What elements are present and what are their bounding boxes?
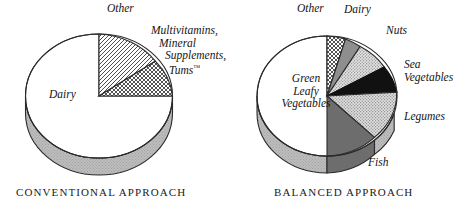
label-legumes: Legumes: [404, 110, 445, 123]
label-green-line2: Leafy: [293, 85, 319, 97]
label-dairy-balanced: Dairy: [344, 3, 371, 16]
label-supplements-line4: Tums: [169, 64, 193, 77]
label-supplements-line3: Supplements,: [165, 49, 226, 62]
label-supplements-conventional: Multivitamins, Mineral Supplements, Tums…: [151, 24, 237, 77]
figure-two-pie-charts: Other Dairy Multivitamins, Mineral Suppl…: [0, 0, 473, 211]
label-supplements-line2: Mineral: [159, 37, 196, 50]
label-green-leafy-vegetables: Green Leafy Vegetables: [268, 72, 344, 110]
label-supplements-line1: Multivitamins,: [151, 24, 218, 36]
label-other-conventional: Other: [107, 2, 134, 15]
label-other-balanced: Other: [297, 2, 324, 15]
label-nuts: Nuts: [386, 24, 407, 37]
label-green-line1: Green: [292, 72, 320, 84]
trademark-symbol: ™: [193, 64, 200, 72]
caption-balanced-approach: BALANCED APPROACH: [274, 186, 413, 198]
caption-conventional-approach: CONVENTIONAL APPROACH: [16, 186, 186, 198]
label-dairy-conventional: Dairy: [49, 88, 76, 101]
label-sea-vegetables: Sea Vegetables: [404, 58, 472, 83]
label-fish: Fish: [368, 156, 388, 169]
label-sea-vegetables-line1: Sea: [404, 58, 421, 70]
label-sea-vegetables-line2: Vegetables: [404, 71, 453, 83]
label-green-line3: Vegetables: [281, 97, 330, 109]
